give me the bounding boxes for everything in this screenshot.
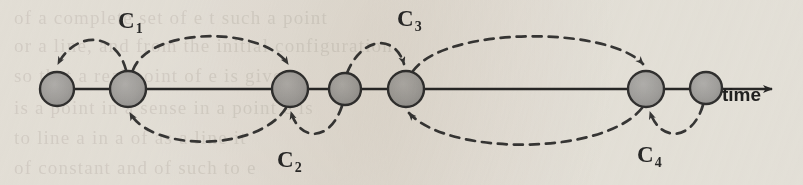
event-node-4[interactable]: [329, 73, 361, 105]
arc-label-c2: C2: [277, 147, 301, 173]
event-node-5[interactable]: [388, 71, 424, 107]
event-node-6[interactable]: [628, 71, 664, 107]
arc-label-c2-subscript: 2: [295, 160, 302, 175]
arc-label-c1-subscript: 1: [136, 21, 143, 36]
arc-c4-long-bottom: [409, 108, 642, 145]
arc-label-c2-text: C: [277, 147, 294, 172]
arc-c3-long-top: [413, 36, 643, 71]
arc-label-c3-text: C: [397, 6, 414, 31]
arc-c3-short-top: [347, 43, 404, 73]
event-node-3[interactable]: [272, 71, 308, 107]
event-node-2[interactable]: [110, 71, 146, 107]
arcs-above-axis: [58, 36, 643, 73]
arc-c1-long-top: [133, 36, 288, 70]
arc-label-c3: C3: [397, 6, 421, 32]
time-axis-label: time: [722, 84, 761, 106]
arc-c1-short-top: [58, 40, 126, 70]
arc-label-c4-subscript: 4: [655, 155, 662, 170]
event-node-1[interactable]: [40, 72, 74, 106]
event-timeline-figure: of a complete set of e t such a pointor …: [0, 0, 803, 185]
arc-label-c4: C4: [637, 142, 661, 168]
event-node-7[interactable]: [690, 72, 722, 104]
arc-c2-short-bottom: [291, 106, 342, 134]
arc-label-c4-text: C: [637, 142, 654, 167]
arcs-below-axis: [130, 105, 703, 145]
arc-c4-short-bottom: [650, 105, 703, 134]
arc-c2-long-bottom: [130, 108, 286, 142]
arc-label-c1: C1: [118, 8, 142, 34]
arc-label-c1-text: C: [118, 8, 135, 33]
arc-label-c3-subscript: 3: [415, 19, 422, 34]
